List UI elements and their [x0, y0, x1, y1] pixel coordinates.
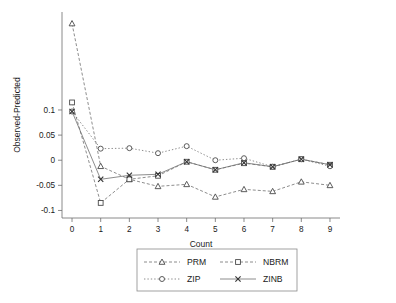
circle-marker-icon — [156, 151, 161, 156]
x-tick-label: 4 — [184, 225, 189, 234]
y-tick-label: -0.05 — [36, 181, 55, 190]
square-marker-icon — [98, 201, 103, 206]
triangle-marker-icon — [69, 21, 75, 26]
x-tick-label: 8 — [299, 225, 304, 234]
legend-label-prm: PRM — [187, 257, 206, 267]
triangle-marker-icon — [155, 183, 161, 188]
series-line-nbrm — [72, 102, 330, 202]
x-tick-label: 1 — [98, 225, 103, 234]
triangle-marker-icon — [184, 181, 190, 186]
circle-marker-icon — [213, 158, 218, 163]
line-chart-canvas: 0.10.050-0.05-0.10123456789CountObserved… — [0, 0, 396, 303]
x-tick-label: 3 — [156, 225, 161, 234]
x-axis-title: Count — [190, 239, 213, 249]
circle-marker-icon — [160, 277, 165, 282]
legend-label-zip: ZIP — [187, 274, 201, 284]
legend-label-nbrm: NBRM — [263, 257, 288, 267]
circle-marker-icon — [184, 144, 189, 149]
x-tick-label: 9 — [328, 225, 333, 234]
legend-box — [137, 249, 297, 291]
triangle-marker-icon — [98, 163, 104, 168]
series-line-zinb — [72, 111, 330, 179]
circle-marker-icon — [98, 146, 103, 151]
y-axis-title: Observed-Predicted — [12, 77, 22, 153]
square-marker-icon — [236, 260, 241, 265]
triangle-marker-icon — [241, 186, 247, 191]
x-tick-label: 2 — [127, 225, 132, 234]
y-tick-label: 0 — [50, 156, 55, 165]
y-tick-label: 0.1 — [44, 106, 56, 115]
triangle-marker-icon — [298, 179, 304, 184]
x-tick-label: 7 — [270, 225, 275, 234]
y-tick-label: -0.1 — [41, 206, 56, 215]
triangle-marker-icon — [212, 194, 218, 199]
y-tick-label: 0.05 — [39, 131, 55, 140]
series-line-prm — [72, 24, 330, 197]
square-marker-icon — [70, 100, 75, 105]
circle-marker-icon — [241, 156, 246, 161]
x-tick-label: 6 — [242, 225, 247, 234]
x-tick-label: 5 — [213, 225, 218, 234]
series-line-zip — [72, 111, 330, 166]
x-tick-label: 0 — [70, 225, 75, 234]
legend-label-zinb: ZINB — [263, 274, 283, 284]
chart-figure: 0.10.050-0.05-0.10123456789CountObserved… — [0, 0, 396, 303]
circle-marker-icon — [127, 146, 132, 151]
